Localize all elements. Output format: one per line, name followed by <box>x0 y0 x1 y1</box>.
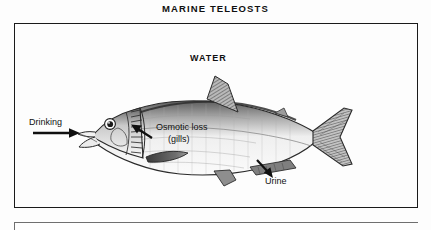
label-osmotic-loss-organ: (gills) <box>168 134 190 144</box>
label-osmotic-loss: Osmotic loss <box>156 122 208 132</box>
label-urine: Urine <box>265 176 287 186</box>
page-title: MARINE TELEOSTS <box>0 3 431 14</box>
diagram-frame <box>14 23 418 208</box>
label-water: WATER <box>190 53 227 63</box>
figure-page: MARINE TELEOSTS <box>0 0 431 230</box>
label-drinking: Drinking <box>29 117 62 127</box>
next-panel-edge <box>14 222 418 230</box>
